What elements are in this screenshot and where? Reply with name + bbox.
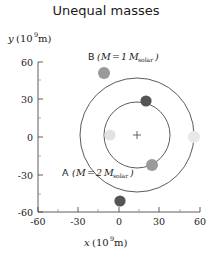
y-tick-label-neg30: -30 [18, 170, 33, 181]
x-tick-label-30: 30 [153, 216, 165, 227]
label-body-A-subscript: solar [113, 172, 128, 179]
y-tick-label-0: 0 [27, 132, 33, 143]
x-tick-label-60: 60 [194, 216, 206, 227]
label-body-A-value: 2 [95, 167, 102, 178]
body-B-marker-phase2 [146, 159, 158, 171]
label-body-B-subscript: solar [138, 56, 153, 63]
x-axis-unit-open: (10 [92, 237, 109, 248]
y-axis-variable: y [7, 33, 14, 44]
label-body-B-paren-close: ) [154, 51, 159, 62]
x-tick-label-0: 0 [116, 216, 122, 227]
x-tick-label-neg30: -30 [70, 216, 85, 227]
label-body-B: B ( M = 1 M solar ) [88, 51, 159, 63]
x-tick-label-neg60: -60 [30, 216, 45, 227]
body-A-marker-phase1 [140, 95, 151, 106]
center-of-mass-marker [133, 131, 141, 139]
chart-title: Unequal masses [53, 3, 160, 18]
y-tick-label-60: 60 [21, 57, 33, 68]
label-body-A-paren-close: ) [129, 167, 134, 178]
label-body-A: A ( M = 2 M solar ) [62, 167, 134, 179]
y-axis-ticks [38, 62, 43, 212]
label-body-A-mass-var: M [75, 167, 86, 178]
x-axis-unit-tail: m) [114, 237, 127, 248]
label-body-A-letter: A [62, 167, 69, 178]
label-body-A-equals: = [87, 167, 95, 178]
y-axis-unit-open: (10 [16, 33, 33, 44]
label-body-B-letter: B [88, 51, 95, 62]
body-A-marker-phase3 [104, 129, 115, 140]
y-tick-label-30: 30 [21, 94, 33, 105]
body-B-marker-phase3 [188, 131, 200, 143]
label-body-B-equals: = [112, 51, 120, 62]
figure-container: Unequal masses y (10 9 m) x (10 9 m) [0, 0, 211, 257]
y-axis-tick-labels: 60 30 0 -30 -60 [18, 57, 33, 218]
x-axis-ticks [38, 207, 200, 212]
x-axis-tick-labels: -60 -30 0 30 60 [30, 216, 206, 227]
x-axis-variable: x [84, 237, 90, 248]
label-body-B-mass-var: M [100, 51, 111, 62]
orbit-plot: Unequal masses y (10 9 m) x (10 9 m) [0, 0, 211, 257]
body-A-marker-phase2 [114, 195, 125, 206]
body-B-marker-phase1 [98, 67, 110, 79]
x-axis-title: x (10 9 m) [84, 235, 127, 248]
y-axis-unit-tail: m) [38, 33, 51, 44]
y-axis-title: y (10 9 m) [7, 31, 51, 44]
label-body-B-value: 1 [121, 51, 127, 62]
